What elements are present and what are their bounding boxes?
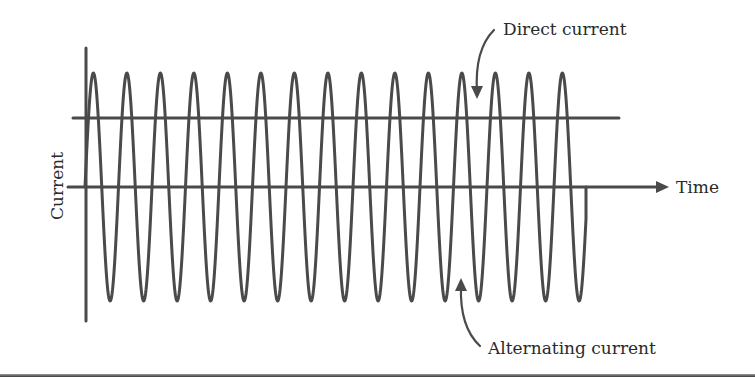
direct-current-arrowhead-icon <box>471 86 483 99</box>
ac-dc-diagram: Current Time Direct current Alternating … <box>0 0 755 377</box>
alternating-current-arrowhead-icon <box>455 278 467 291</box>
x-axis-label: Time <box>676 177 719 197</box>
y-axis-label: Current <box>47 152 67 220</box>
alternating-current-label: Alternating current <box>487 338 656 358</box>
direct-current-label: Direct current <box>503 19 627 39</box>
direct-current-pointer-arrow <box>477 30 494 92</box>
time-axis-arrowhead-icon <box>656 181 669 193</box>
